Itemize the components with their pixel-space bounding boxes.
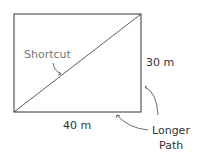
bottom-arrow [117, 115, 148, 130]
height-label: 30 m [146, 57, 174, 68]
shortcut-label: Shortcut [24, 49, 71, 60]
width-label: 40 m [63, 120, 91, 131]
side-arrow [145, 87, 158, 115]
diagonal-shortcut [14, 14, 141, 112]
longer-label-line1: Longer [152, 125, 190, 136]
longer-label-line2: Path [159, 140, 183, 151]
